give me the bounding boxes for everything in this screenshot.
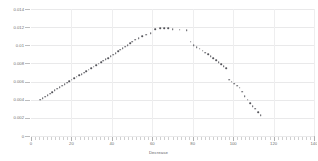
data-point [86, 70, 88, 72]
x-axis-minor-tick [225, 137, 226, 140]
x-axis-minor-tick [128, 137, 129, 140]
y-axis-tick-label: 0.004 [0, 97, 24, 102]
x-axis-minor-tick [253, 137, 254, 140]
data-point [231, 81, 233, 83]
x-axis-minor-tick [290, 137, 291, 140]
gridline-vertical [152, 9, 153, 136]
x-axis-minor-tick [39, 137, 40, 140]
data-point [186, 30, 188, 32]
data-point [52, 91, 54, 93]
data-point [39, 99, 41, 101]
x-axis-minor-tick [168, 137, 169, 140]
data-point [112, 54, 114, 56]
x-axis-minor-tick [51, 137, 52, 140]
x-axis-minor-tick [241, 137, 242, 140]
x-axis-minor-tick [185, 137, 186, 140]
data-point [215, 59, 217, 61]
gridline-vertical [112, 9, 113, 136]
x-axis-minor-tick [205, 137, 206, 140]
gridline-vertical [193, 9, 194, 136]
y-axis-tick [25, 27, 30, 28]
data-point [202, 50, 204, 52]
data-point [164, 27, 166, 29]
data-point [218, 61, 220, 63]
x-axis-minor-tick [75, 137, 76, 140]
x-axis-minor-tick [156, 137, 157, 140]
gridline-vertical [274, 9, 275, 136]
y-axis-tick-label: 0 [0, 134, 24, 139]
data-point [64, 83, 66, 85]
data-point [59, 86, 61, 88]
data-point [239, 87, 241, 89]
x-axis-minor-tick [55, 137, 56, 140]
x-axis-minor-tick [217, 137, 218, 140]
data-point [83, 72, 85, 74]
x-axis-minor-tick [181, 137, 182, 140]
gridline-horizontal [31, 45, 314, 46]
x-axis-tick-label: 20 [69, 141, 74, 146]
x-axis-minor-tick [164, 137, 165, 140]
x-axis-minor-tick [229, 137, 230, 140]
y-axis-tick [25, 63, 30, 64]
gridline-vertical [314, 9, 315, 136]
data-point [172, 28, 174, 30]
x-axis-tick-label: 140 [311, 141, 318, 146]
y-axis-tick-label: 0.01 [0, 43, 24, 48]
data-point [226, 67, 228, 69]
gridline-horizontal [31, 100, 314, 101]
x-axis-minor-tick [35, 137, 36, 140]
x-axis-minor-tick [245, 137, 246, 140]
x-axis-minor-tick [221, 137, 222, 140]
data-point [145, 34, 147, 36]
gridline-vertical [233, 9, 234, 136]
x-axis-minor-tick [124, 137, 125, 140]
data-point [244, 95, 246, 97]
x-axis-minor-tick [144, 137, 145, 140]
x-axis-minor-tick [177, 137, 178, 140]
data-point [179, 29, 181, 31]
data-point [135, 39, 137, 41]
x-axis-minor-tick [270, 137, 271, 140]
data-point [257, 111, 259, 113]
x-axis-minor-tick [136, 137, 137, 140]
data-point [56, 88, 58, 90]
x-axis-tick-label: 100 [230, 141, 237, 146]
y-axis-tick [25, 9, 30, 10]
x-axis-tick-label: 40 [110, 141, 115, 146]
data-point [260, 114, 262, 116]
data-point [54, 90, 56, 92]
x-axis-minor-tick [261, 137, 262, 140]
data-point [234, 83, 236, 85]
x-axis-minor-tick [67, 137, 68, 140]
x-axis-minor-tick [310, 137, 311, 140]
data-point [81, 73, 83, 75]
plot-area [31, 9, 314, 136]
data-point [122, 47, 124, 49]
gridline-horizontal [31, 9, 314, 10]
data-point [103, 60, 105, 62]
y-axis-tick [25, 136, 30, 137]
x-axis-minor-tick [47, 137, 48, 140]
data-point [120, 49, 122, 51]
x-axis-minor-tick [108, 137, 109, 140]
y-axis-tick [25, 45, 30, 46]
y-axis-tick-label: 0.006 [0, 79, 24, 84]
data-point [90, 67, 92, 69]
x-axis-minor-tick [84, 137, 85, 140]
y-axis-tick-label: 0.002 [0, 115, 24, 120]
data-point [95, 64, 97, 66]
x-axis-minor-tick [96, 137, 97, 140]
x-axis-tick-label: 80 [190, 141, 195, 146]
data-point [49, 93, 51, 95]
y-axis-tick-label: 0.008 [0, 61, 24, 66]
data-point [69, 80, 71, 82]
x-axis-minor-tick [92, 137, 93, 140]
data-point [73, 78, 75, 80]
gridline-horizontal [31, 82, 314, 83]
data-point [100, 62, 102, 64]
x-axis-minor-tick [213, 137, 214, 140]
x-axis-minor-tick [140, 137, 141, 140]
data-point [241, 91, 243, 93]
data-point [213, 57, 215, 59]
x-axis-minor-tick [160, 137, 161, 140]
